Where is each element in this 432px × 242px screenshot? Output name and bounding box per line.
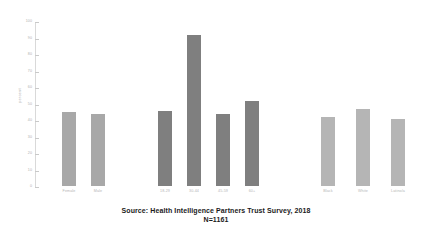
y-tick-label: 60: [28, 86, 32, 90]
y-tick-label: 50: [28, 103, 32, 107]
bar-category-label: 30-44: [189, 190, 199, 194]
bar: 60+: [245, 101, 259, 186]
bar-category-label: Female: [63, 190, 76, 194]
y-tick-mark: [35, 187, 39, 188]
y-tick-label: 0: [30, 185, 32, 189]
y-tick-label: 30: [28, 136, 32, 140]
bar: Female: [62, 112, 76, 186]
bar: Latino/a: [391, 119, 405, 186]
source-text: Source: Health Intelligence Partners Tru…: [0, 206, 432, 215]
bar: White: [356, 109, 370, 186]
bar-category-label: Male: [94, 190, 102, 194]
y-tick-label: 10: [28, 169, 32, 173]
bar-chart: percent 0102030405060708090100 FemaleMal…: [0, 0, 432, 242]
bar: 45-59: [216, 114, 230, 186]
bar-category-label: Latino/a: [391, 190, 405, 194]
bar: Male: [91, 114, 105, 186]
y-tick-label: 80: [28, 53, 32, 57]
bar-category-label: 18-29: [160, 190, 170, 194]
bar: 18-29: [158, 111, 172, 186]
bar-category-label: 45-59: [218, 190, 228, 194]
bar-category-label: Black: [323, 190, 333, 194]
bar-category-label: White: [358, 190, 368, 194]
bar: Black: [321, 117, 335, 186]
y-tick-label: 70: [28, 70, 32, 74]
y-tick-label: 90: [28, 37, 32, 41]
y-tick-label: 100: [26, 20, 32, 24]
bar: 30-44: [187, 35, 201, 186]
sample-size-text: N=1161: [0, 215, 432, 224]
bar-category-label: 60+: [249, 190, 256, 194]
y-tick-label: 40: [28, 119, 32, 123]
chart-footer: Source: Health Intelligence Partners Tru…: [0, 206, 432, 225]
y-tick-label: 20: [28, 152, 32, 156]
y-axis-title: percent: [17, 88, 22, 103]
plot-area: FemaleMale18-2930-4445-5960+BlackWhiteLa…: [36, 22, 420, 186]
